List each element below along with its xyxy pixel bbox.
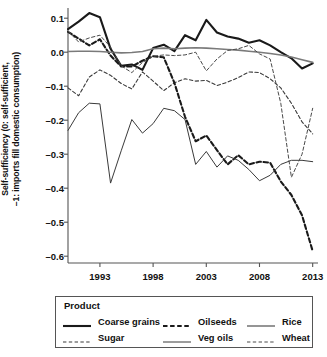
legend-swatch-line-icon [62,333,92,343]
legend-item[interactable]: Veg oils [162,330,246,346]
legend-item[interactable]: Oilseeds [162,314,246,330]
x-axis-tick-labels: 19931998200320082013 [0,265,327,285]
legend-swatch-line-icon [246,333,276,343]
legend-label: Sugar [98,333,124,343]
legend-swatch-line-icon [62,317,92,327]
legend-label: Coarse grains [98,317,160,327]
legend-label: Veg oils [198,333,233,343]
legend-swatch-line-icon [162,317,192,327]
legend-row: SugarVeg oilsWheat [62,330,310,346]
chart-figure: Self-sufficiency (0: self-sufficient, –1… [0,0,327,357]
legend-title: Product [64,300,100,311]
legend-item[interactable]: Rice [246,314,310,330]
x-axis-tick-label: 2013 [302,271,323,282]
x-axis-tick-label: 1993 [89,271,110,282]
legend-item[interactable]: Sugar [62,330,162,346]
legend-item[interactable]: Wheat [246,330,310,346]
legend-entries: Coarse grainsOilseedsRiceSugarVeg oilsWh… [62,314,310,346]
x-axis-tick-label: 2008 [249,271,270,282]
series-line [68,31,313,177]
legend-label: Wheat [282,333,310,343]
legend-label: Oilseeds [198,317,237,327]
legend-label: Rice [282,317,302,327]
legend-item[interactable]: Coarse grains [62,314,162,330]
legend: Product Coarse grainsOilseedsRiceSugarVe… [55,296,313,348]
x-axis-tick-label: 1998 [143,271,164,282]
legend-swatch-line-icon [162,333,192,343]
legend-row: Coarse grainsOilseedsRice [62,314,310,330]
x-axis-tick-label: 2003 [196,271,217,282]
legend-swatch-line-icon [246,317,276,327]
series-line [68,70,313,134]
series-line [68,13,313,70]
